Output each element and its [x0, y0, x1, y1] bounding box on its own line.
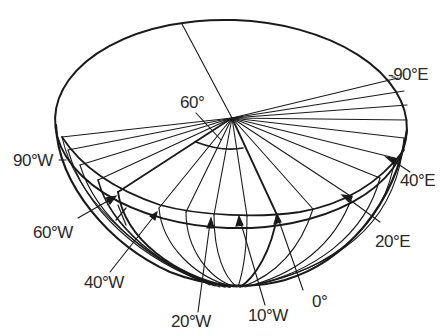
- label-60-west: 60°W: [33, 224, 73, 241]
- label-90-east: -90°E: [388, 66, 428, 83]
- label-40-east: 40°E: [400, 172, 435, 189]
- label-40-west: 40°W: [84, 274, 124, 291]
- hemisphere-drawing: [0, 0, 448, 336]
- label-20-east: 20°E: [375, 233, 410, 250]
- lower-meridians: [62, 137, 404, 287]
- label-20-west: 20°W: [171, 313, 211, 330]
- label-60-degree: 60°: [180, 94, 204, 111]
- label-90-west: 90°W: [13, 152, 53, 169]
- label-10-west: 10°W: [248, 307, 288, 324]
- label-0-degree: 0°: [312, 293, 327, 310]
- hemisphere-diagram: 60° -90°E 90°W 40°E 20°E 60°W 40°W 20°W …: [0, 0, 448, 336]
